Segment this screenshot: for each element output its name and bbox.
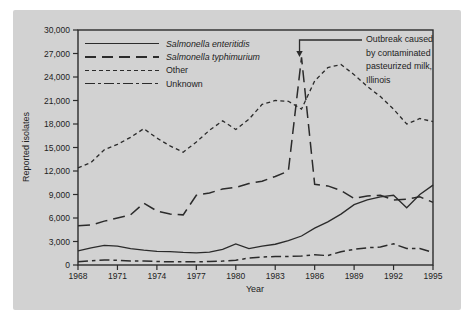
x-tick-label: 1989 (345, 271, 364, 281)
legend-line-sample-short-dash (85, 70, 159, 71)
annotation-arrowhead (296, 51, 302, 57)
y-tick-label: 12,000 (44, 166, 70, 176)
x-tick-label: 1995 (424, 271, 443, 281)
y-tick-label: 24,000 (44, 72, 70, 82)
y-tick-label: 18,000 (44, 119, 70, 129)
legend-line-sample-dash-dot (85, 83, 159, 85)
legend-line-sample-long-dash (85, 56, 159, 58)
x-tick-label: 1977 (187, 271, 206, 281)
legend-label: Unknown (166, 79, 203, 89)
y-tick-label: 27,000 (44, 49, 70, 59)
legend: Salmonella enteritidis Salmonella typhim… (85, 37, 260, 90)
x-tick-label: 1992 (384, 271, 403, 281)
y-tick-label: 15,000 (44, 143, 70, 153)
y-axis-title: Reported isolates (21, 87, 33, 207)
x-tick-label: 1986 (305, 271, 324, 281)
legend-item-typhimurium: Salmonella typhimurium (85, 50, 260, 63)
legend-label: Salmonella typhimurium (166, 52, 260, 62)
y-tick-label: 6,000 (49, 213, 71, 223)
legend-item-other: Other (85, 64, 260, 77)
x-tick-label: 1971 (108, 271, 127, 281)
outbreak-annotation: Outbreak caused by contaminated pasteuri… (366, 33, 466, 87)
x-tick-label: 1980 (226, 271, 245, 281)
y-tick-label: 30,000 (44, 25, 70, 35)
legend-label: Other (166, 65, 188, 75)
x-tick-label: 1968 (69, 271, 88, 281)
x-tick-label: 1983 (266, 271, 285, 281)
legend-line-sample-solid (85, 43, 159, 45)
y-tick-label: 0 (65, 260, 70, 270)
page: 03,0006,0009,00012,00015,00018,00021,000… (0, 0, 474, 321)
legend-label: Salmonella enteritidis (166, 39, 250, 49)
x-tick-label: 1974 (147, 271, 166, 281)
annotation-connector (300, 40, 362, 51)
y-tick-label: 9,000 (49, 190, 71, 200)
line-unknown (78, 244, 433, 262)
y-tick-label: 21,000 (44, 96, 70, 106)
x-axis-title: Year (225, 284, 285, 294)
y-tick-label: 3,000 (49, 237, 71, 247)
legend-item-enteritidis: Salmonella enteritidis (85, 37, 260, 50)
legend-item-unknown: Unknown (85, 77, 260, 90)
